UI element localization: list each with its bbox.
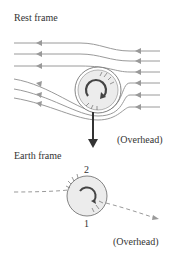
earth-frame-title: Earth frame <box>14 150 61 161</box>
point-1-label: 1 <box>84 218 89 229</box>
force-arrow <box>88 112 98 148</box>
earth-frame-caption: (Overhead) <box>113 236 159 247</box>
rest-frame-ball <box>75 67 121 113</box>
point-2-label: 2 <box>84 164 89 175</box>
earth-frame-ball <box>66 174 107 216</box>
rest-frame-caption: (Overhead) <box>117 134 163 145</box>
rest-frame-title: Rest frame <box>14 12 58 23</box>
